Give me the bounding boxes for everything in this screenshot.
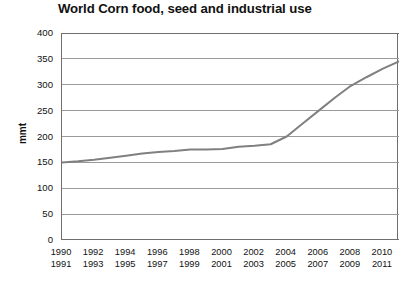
x-tick-label-bottom: 2001 <box>203 259 239 271</box>
chart-container: World Corn food, seed and industrial use… <box>0 0 415 283</box>
chart-plot-svg <box>62 33 399 240</box>
x-tick-label: 20062007 <box>300 247 336 270</box>
x-tick-label: 20022003 <box>236 247 272 270</box>
y-tick-label: 400 <box>17 28 53 38</box>
y-tick-label: 0 <box>17 235 53 245</box>
plot-area <box>61 33 398 240</box>
x-tick-label-top: 1998 <box>171 247 207 259</box>
y-tick-label: 100 <box>17 183 53 193</box>
gridlines <box>62 33 399 240</box>
x-tick-label-bottom: 1991 <box>43 259 79 271</box>
x-tick-label-top: 1990 <box>43 247 79 259</box>
x-tick-label: 20042005 <box>268 247 304 270</box>
x-tick-label-top: 1992 <box>75 247 111 259</box>
x-axis-tick-labels: 1990199119921993199419951996199719981999… <box>61 247 398 279</box>
x-tick-label: 19901991 <box>43 247 79 270</box>
x-tick-label: 20102011 <box>364 247 400 270</box>
data-series-line <box>62 61 399 162</box>
x-tick-label: 19941995 <box>107 247 143 270</box>
x-tick-label-bottom: 1995 <box>107 259 143 271</box>
x-tick-label: 20002001 <box>203 247 239 270</box>
x-tick-label-bottom: 2005 <box>268 259 304 271</box>
x-tick-label-bottom: 2011 <box>364 259 400 271</box>
x-tick-label-top: 2004 <box>268 247 304 259</box>
x-tick-label-top: 2002 <box>236 247 272 259</box>
x-tick-label-bottom: 2009 <box>332 259 368 271</box>
y-tick-label: 150 <box>17 157 53 167</box>
x-tick-label-bottom: 1999 <box>171 259 207 271</box>
y-tick-label: 350 <box>17 54 53 64</box>
x-tick-label-top: 2000 <box>203 247 239 259</box>
x-tick-label: 19961997 <box>139 247 175 270</box>
x-tick-label-top: 1994 <box>107 247 143 259</box>
x-tick-label-top: 2006 <box>300 247 336 259</box>
x-tick-label-top: 1996 <box>139 247 175 259</box>
x-tick-label: 19921993 <box>75 247 111 270</box>
x-tick-label-bottom: 1997 <box>139 259 175 271</box>
chart-title: World Corn food, seed and industrial use <box>58 1 388 16</box>
x-tick-label-bottom: 2003 <box>236 259 272 271</box>
x-tick-label: 20082009 <box>332 247 368 270</box>
y-tick-label: 300 <box>17 80 53 90</box>
y-tick-label: 200 <box>17 132 53 142</box>
y-tick-label: 50 <box>17 209 53 219</box>
x-tick-label-bottom: 1993 <box>75 259 111 271</box>
y-tick-label: 250 <box>17 106 53 116</box>
x-tick-label-top: 2008 <box>332 247 368 259</box>
x-tick-label: 19981999 <box>171 247 207 270</box>
x-tick-label-top: 2010 <box>364 247 400 259</box>
x-tick-label-bottom: 2007 <box>300 259 336 271</box>
